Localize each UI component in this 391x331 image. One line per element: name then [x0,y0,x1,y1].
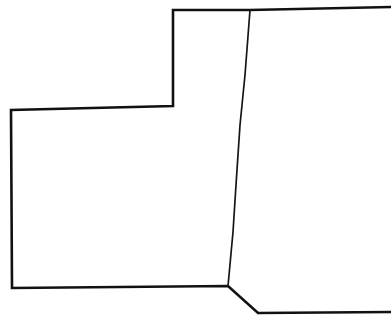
region-right-parcel [228,7,391,313]
line-drawing-svg [0,0,391,331]
diagram-canvas [0,0,391,331]
